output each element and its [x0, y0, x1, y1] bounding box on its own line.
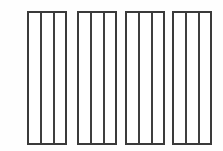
panel-right-stile: [65, 11, 67, 145]
panel-baluster: [138, 13, 140, 143]
panel-right-stile: [115, 11, 117, 145]
panel-baluster: [40, 13, 42, 143]
panel-section: [172, 11, 212, 145]
panel-bottom-rail: [125, 143, 165, 145]
panel-bottom-rail: [77, 143, 117, 145]
panel-bottom-rail: [27, 143, 67, 145]
panel-baluster: [185, 13, 187, 143]
panel-left-stile: [27, 11, 29, 145]
panel-top-rail: [125, 11, 165, 13]
panel-section: [27, 11, 67, 145]
panel-top-rail: [77, 11, 117, 13]
diagram-canvas: [0, 0, 223, 151]
panel-baluster: [103, 13, 105, 143]
panel-baluster: [151, 13, 153, 143]
panel-right-stile: [163, 11, 165, 145]
panel-left-stile: [125, 11, 127, 145]
panel-left-stile: [172, 11, 174, 145]
panel-baluster: [198, 13, 200, 143]
panel-section: [77, 11, 117, 145]
panel-baluster: [90, 13, 92, 143]
panel-bottom-rail: [172, 143, 212, 145]
panel-section: [125, 11, 165, 145]
panel-right-stile: [210, 11, 212, 145]
panel-top-rail: [172, 11, 212, 13]
panel-top-rail: [27, 11, 67, 13]
panel-group: [0, 0, 223, 151]
panel-left-stile: [77, 11, 79, 145]
panel-baluster: [53, 13, 55, 143]
